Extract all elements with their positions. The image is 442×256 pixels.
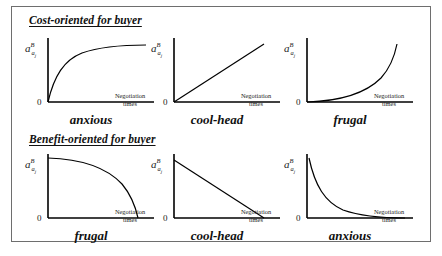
x-axis-label-line2: times bbox=[363, 100, 415, 108]
plot-cost-frugal: 0 aBaj Negotiation times frugal bbox=[285, 36, 415, 124]
plot-benefit-frugal: 0 aBaj Negotiation times frugal bbox=[26, 152, 156, 240]
origin-label: 0 bbox=[37, 98, 42, 107]
x-axis-label: Negotiation times bbox=[104, 208, 156, 224]
origin-label: 0 bbox=[37, 214, 42, 223]
y-axis-label-superscript: B bbox=[31, 41, 35, 48]
x-axis-label-line1: Negotiation bbox=[115, 208, 145, 215]
origin-label: 0 bbox=[296, 214, 301, 223]
origin-label: 0 bbox=[296, 98, 301, 107]
y-axis-label-superscript: B bbox=[31, 157, 35, 164]
x-axis-label-line1: Negotiation bbox=[241, 208, 271, 215]
x-axis-label-line2: times bbox=[230, 100, 282, 108]
plot-caption: anxious bbox=[26, 112, 156, 128]
origin-label: 0 bbox=[163, 214, 168, 223]
y-axis-label: aBaj bbox=[151, 158, 162, 174]
y-axis-label-superscript: B bbox=[290, 157, 294, 164]
y-axis-label-subscript-index: j bbox=[161, 53, 162, 58]
x-axis-label-line1: Negotiation bbox=[115, 92, 145, 99]
y-axis-label-subscript-index: j bbox=[35, 53, 36, 58]
y-axis-label: aBaj bbox=[284, 42, 295, 58]
x-axis-label: Negotiation times bbox=[104, 92, 156, 108]
x-axis-label: Negotiation times bbox=[230, 208, 282, 224]
y-axis-label-subscript: aj bbox=[31, 165, 36, 172]
y-axis-label-superscript: B bbox=[157, 157, 161, 164]
plot-caption: cool-head bbox=[152, 228, 282, 244]
x-axis-label: Negotiation times bbox=[230, 92, 282, 108]
y-axis-label-subscript-index: j bbox=[35, 169, 36, 174]
plot-caption: cool-head bbox=[152, 112, 282, 128]
x-axis-label-line1: Negotiation bbox=[374, 208, 404, 215]
figure-container: Cost-oriented for buyer Benefit-oriented… bbox=[0, 0, 442, 256]
y-axis-label-subscript: aj bbox=[290, 165, 295, 172]
plot-benefit-cool-head: 0 aBaj Negotiation times cool-head bbox=[152, 152, 282, 240]
x-axis-label: Negotiation times bbox=[363, 208, 415, 224]
x-axis-label-line2: times bbox=[104, 100, 156, 108]
x-axis-label-line1: Negotiation bbox=[241, 92, 271, 99]
plot-caption: frugal bbox=[26, 228, 156, 244]
x-axis-label-line2: times bbox=[104, 216, 156, 224]
y-axis-label: aBaj bbox=[151, 42, 162, 58]
y-axis-label-subscript: aj bbox=[31, 49, 36, 56]
y-axis-label: aBaj bbox=[25, 158, 36, 174]
y-axis-label-superscript: B bbox=[290, 41, 294, 48]
plot-caption: anxious bbox=[285, 228, 415, 244]
plot-benefit-anxious: 0 aBaj Negotiation times anxious bbox=[285, 152, 415, 240]
x-axis-label: Negotiation times bbox=[363, 92, 415, 108]
y-axis-label: aBaj bbox=[25, 42, 36, 58]
plot-cost-anxious: 0 aBaj Negotiation times anxious bbox=[26, 36, 156, 124]
row-heading-cost-oriented: Cost-oriented for buyer bbox=[29, 14, 142, 26]
row-heading-benefit-oriented: Benefit-oriented for buyer bbox=[29, 133, 156, 145]
y-axis-label-subscript-index: j bbox=[294, 53, 295, 58]
x-axis-label-line1: Negotiation bbox=[374, 92, 404, 99]
origin-label: 0 bbox=[163, 98, 168, 107]
x-axis-label-line2: times bbox=[363, 216, 415, 224]
y-axis-label-subscript: aj bbox=[290, 49, 295, 56]
y-axis-label-subscript: aj bbox=[157, 165, 162, 172]
y-axis-label-subscript-index: j bbox=[294, 169, 295, 174]
y-axis-label: aBaj bbox=[284, 158, 295, 174]
plot-cost-cool-head: 0 aBaj Negotiation times cool-head bbox=[152, 36, 282, 124]
y-axis-label-superscript: B bbox=[157, 41, 161, 48]
plot-caption: frugal bbox=[285, 112, 415, 128]
y-axis-label-subscript: aj bbox=[157, 49, 162, 56]
y-axis-label-subscript-index: j bbox=[161, 169, 162, 174]
x-axis-label-line2: times bbox=[230, 216, 282, 224]
